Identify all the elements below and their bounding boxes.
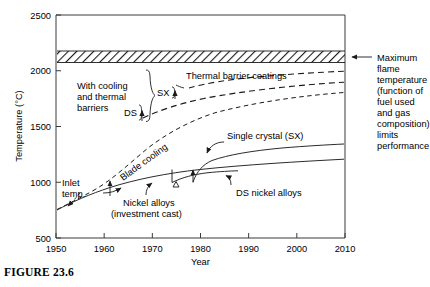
inlet-temp-annotation: Inlet temp.: [62, 178, 85, 199]
y-tick-label-2500: 2500: [30, 11, 51, 21]
series-nickel-alloys-investment-cast: [57, 159, 344, 210]
max-flame-line-9: performance: [377, 141, 429, 151]
x-tick-label-1980: 1980: [190, 244, 211, 254]
ds-nickel-alloys-label: DS nickel alloys: [236, 188, 302, 198]
sx-label: SX: [157, 88, 169, 98]
sx-brace-and-arrow: [172, 87, 175, 99]
max-flame-line-8: limits: [377, 130, 399, 140]
x-tick-label-2000: 2000: [286, 244, 307, 254]
blade-cooling-label: Blade cooling: [118, 142, 169, 183]
max-flame-line-7: composition): [377, 119, 430, 129]
y-tick-label-500: 500: [35, 234, 51, 244]
axes-frame: [56, 15, 345, 238]
y-tick-label-2000: 2000: [30, 66, 51, 76]
with-cooling-annotation: With cooling and thermal barriers: [77, 81, 128, 113]
nickel-alloys-line-1: Nickel alloys: [123, 198, 175, 208]
x-axis-ticks: [56, 233, 345, 238]
max-flame-line-5: fuel used: [377, 97, 415, 107]
max-flame-line-4: (function of: [377, 86, 423, 96]
maximum-flame-temperature-annotation: Maximum flame temperature (function of f…: [377, 53, 430, 151]
x-tick-label-2010: 2010: [335, 244, 356, 254]
x-tick-label-1970: 1970: [142, 244, 163, 254]
single-crystal-label: Single crystal (SX): [227, 131, 303, 141]
x-tick-label-1990: 1990: [238, 244, 259, 254]
nickel-alloys-marker-arrow: [173, 182, 179, 188]
series-single-crystal-sx: [193, 144, 344, 182]
max-flame-line-1: Maximum: [377, 53, 418, 63]
x-axis-title: Year: [191, 257, 210, 267]
nickel-alloys-leader: [146, 183, 152, 195]
inlet-temp-line-1: Inlet: [62, 178, 80, 188]
max-flame-line-3: temperature: [377, 75, 427, 85]
single-crystal-leader: [207, 142, 224, 153]
figure-container: 2500 2000 1500 1000 500 1950 1960 1970 1…: [0, 0, 430, 287]
x-tick-labels: 1950 1960 1970 1980 1990 2000 2010: [46, 244, 356, 254]
thermal-barrier-coatings-label: Thermal barrier coatings: [186, 71, 287, 81]
ds-label: DS: [124, 108, 137, 118]
maximum-flame-temperature-band: [57, 51, 345, 63]
max-flame-line-2: flame: [377, 64, 400, 74]
x-tick-label-1950: 1950: [46, 244, 67, 254]
with-cooling-line-3: barriers: [77, 103, 109, 113]
nickel-alloys-annotation: Nickel alloys (investment cast): [111, 198, 182, 219]
ds-nickel-alloys-leader: [226, 176, 231, 186]
inlet-temp-line-2: temp.: [62, 189, 85, 199]
y-tick-labels: 2500 2000 1500 1000 500: [30, 11, 51, 244]
ds-brace-and-arrow: [139, 105, 142, 121]
max-flame-line-6: and gas: [377, 108, 410, 118]
temperature-vs-year-chart: 2500 2000 1500 1000 500 1950 1960 1970 1…: [0, 0, 430, 287]
y-tick-label-1500: 1500: [30, 122, 51, 132]
figure-caption: FIGURE 23.6: [4, 266, 74, 278]
y-axis-ticks: [56, 15, 61, 238]
with-cooling-line-1: With cooling: [77, 81, 128, 91]
y-tick-label-1000: 1000: [30, 178, 51, 188]
nickel-alloys-line-2: (investment cast): [111, 209, 182, 219]
thermal-barrier-coatings-leader: [176, 85, 184, 88]
x-tick-label-1960: 1960: [94, 244, 115, 254]
y-axis-title: Temperature (°C): [14, 90, 24, 161]
with-cooling-line-2: and thermal: [77, 92, 126, 102]
